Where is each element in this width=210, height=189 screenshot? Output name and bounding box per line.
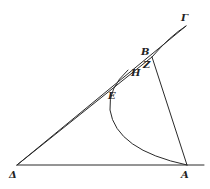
- label-zeta: Z: [143, 60, 150, 70]
- label-alpha: A: [181, 170, 189, 180]
- label-gamma: Γ: [181, 13, 188, 23]
- label-delta: Δ: [9, 170, 17, 180]
- label-epsilon: E: [108, 91, 116, 101]
- label-beta: B: [141, 47, 149, 57]
- label-eta: H: [131, 68, 140, 78]
- curve-epsilon-alpha: [110, 70, 187, 165]
- geometric-figure: [0, 0, 210, 189]
- line-beta-alpha: [152, 57, 187, 165]
